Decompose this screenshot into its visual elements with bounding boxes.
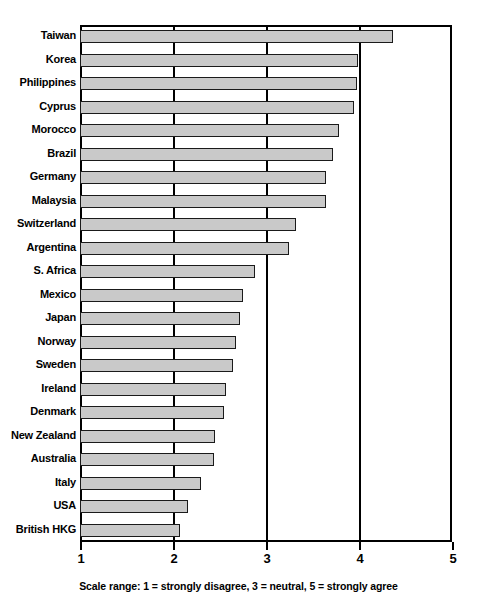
x-tick-label: 4: [350, 551, 370, 566]
bar-row: S. Africa: [0, 260, 477, 284]
bar-chart: TaiwanKoreaPhilippinesCyprusMoroccoBrazi…: [0, 0, 477, 616]
category-label: Taiwan: [0, 28, 76, 42]
bar-row: Germany: [0, 166, 477, 190]
category-label: Denmark: [0, 404, 76, 418]
category-label: Ireland: [0, 381, 76, 395]
x-tick-label: 1: [71, 551, 91, 566]
bar-row: Mexico: [0, 284, 477, 308]
bar-row: Ireland: [0, 378, 477, 402]
category-label: Korea: [0, 52, 76, 66]
bar-row: Korea: [0, 49, 477, 73]
bar-row: Malaysia: [0, 190, 477, 214]
category-label: Mexico: [0, 287, 76, 301]
bar: [80, 101, 354, 114]
x-tick: [359, 542, 361, 550]
bar: [80, 54, 358, 67]
bar: [80, 359, 233, 372]
bar-row: Switzerland: [0, 213, 477, 237]
x-tick-label: 5: [443, 551, 463, 566]
x-axis: 12345: [80, 542, 452, 543]
bar-row: USA: [0, 495, 477, 519]
bar-row: Cyprus: [0, 96, 477, 120]
category-label: Argentina: [0, 240, 76, 254]
x-tick-label: 2: [164, 551, 184, 566]
bar: [80, 406, 224, 419]
bar-row: Morocco: [0, 119, 477, 143]
x-axis-caption: Scale range: 1 = strongly disagree, 3 = …: [0, 580, 477, 592]
category-label: British HKG: [0, 522, 76, 536]
category-label: Sweden: [0, 357, 76, 371]
bar-row: Brazil: [0, 143, 477, 167]
bar: [80, 430, 215, 443]
bar: [80, 30, 393, 43]
category-label: Malaysia: [0, 193, 76, 207]
category-label: S. Africa: [0, 263, 76, 277]
x-tick: [80, 542, 82, 550]
bar-rows: TaiwanKoreaPhilippinesCyprusMoroccoBrazi…: [0, 25, 477, 542]
bar: [80, 453, 214, 466]
bar-row: Italy: [0, 472, 477, 496]
category-label: Norway: [0, 334, 76, 348]
bar: [80, 77, 357, 90]
bar: [80, 148, 333, 161]
bar-row: Australia: [0, 448, 477, 472]
bar-row: Philippines: [0, 72, 477, 96]
category-label: USA: [0, 498, 76, 512]
category-label: Morocco: [0, 122, 76, 136]
bar-row: Taiwan: [0, 25, 477, 49]
category-label: Cyprus: [0, 99, 76, 113]
bar-row: Norway: [0, 331, 477, 355]
bar: [80, 171, 326, 184]
category-label: Philippines: [0, 75, 76, 89]
category-label: New Zealand: [0, 428, 76, 442]
x-tick-label: 3: [257, 551, 277, 566]
category-label: Germany: [0, 169, 76, 183]
bar-row: Sweden: [0, 354, 477, 378]
bar: [80, 383, 226, 396]
x-tick: [266, 542, 268, 550]
category-label: Italy: [0, 475, 76, 489]
bar-row: Denmark: [0, 401, 477, 425]
bar: [80, 524, 180, 537]
bar-row: Argentina: [0, 237, 477, 261]
bar: [80, 289, 243, 302]
bar: [80, 312, 240, 325]
x-tick: [173, 542, 175, 550]
bar-row: Japan: [0, 307, 477, 331]
bar: [80, 500, 188, 513]
bar-row: New Zealand: [0, 425, 477, 449]
bar: [80, 242, 289, 255]
bar: [80, 218, 296, 231]
bar: [80, 124, 339, 137]
bar: [80, 336, 236, 349]
category-label: Brazil: [0, 146, 76, 160]
bar: [80, 477, 201, 490]
category-label: Australia: [0, 451, 76, 465]
category-label: Japan: [0, 310, 76, 324]
x-tick: [452, 542, 454, 550]
bar: [80, 195, 326, 208]
bar: [80, 265, 255, 278]
bar-row: British HKG: [0, 519, 477, 543]
category-label: Switzerland: [0, 216, 76, 230]
